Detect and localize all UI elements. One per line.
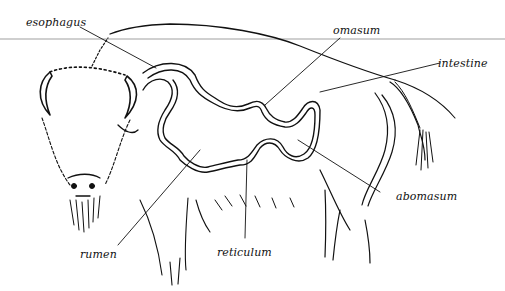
bison-stomach-diagram: esophagus omasum intestine abomasum rume… — [0, 0, 505, 291]
nose — [68, 174, 100, 178]
left-horn — [40, 72, 52, 115]
leader-lines — [80, 27, 440, 245]
label-omasum: omasum — [333, 24, 380, 37]
rumen-leader — [118, 150, 200, 245]
label-esophagus: esophagus — [26, 16, 86, 29]
tail — [390, 82, 425, 160]
label-rumen: rumen — [80, 248, 117, 261]
label-reticulum: reticulum — [217, 246, 272, 259]
abomasum-leader — [298, 140, 380, 192]
beard — [70, 196, 100, 232]
label-abomasum: abomasum — [396, 190, 457, 203]
esophagus-leader — [80, 27, 156, 68]
label-intestine: intestine — [438, 57, 488, 70]
right-horn — [125, 76, 137, 118]
intestine-leader — [320, 63, 440, 92]
face-right — [105, 120, 130, 185]
omasum-leader — [265, 38, 340, 105]
reticulum-leader — [245, 160, 247, 238]
front-legs — [140, 198, 210, 285]
head-top-dotted — [50, 67, 125, 75]
belly-hatching — [215, 195, 294, 210]
ear — [118, 125, 138, 132]
face-left — [42, 118, 70, 185]
